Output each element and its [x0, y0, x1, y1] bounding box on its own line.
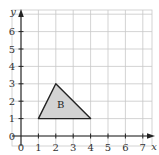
- x-axis-arrow-icon: [147, 133, 155, 139]
- y-tick-label: 1: [9, 113, 15, 124]
- grid-border: [12, 10, 152, 146]
- y-axis-label: y: [9, 6, 16, 17]
- x-tick-label: 3: [70, 142, 76, 153]
- shape-label: B: [57, 99, 64, 110]
- y-tick-label: 0: [9, 131, 15, 142]
- tick-marks: [19, 32, 143, 139]
- y-tick-label: 3: [9, 78, 15, 89]
- labels: 012345670123456xy: [9, 6, 158, 153]
- x-tick-label: 4: [87, 142, 93, 153]
- x-tick-label: 1: [35, 142, 41, 153]
- x-axis-label: x: [151, 141, 157, 152]
- y-tick-label: 6: [9, 26, 15, 37]
- x-tick-label: 2: [53, 142, 59, 153]
- x-tick-label: 0: [18, 142, 24, 153]
- coordinate-grid-chart: B 012345670123456xy: [0, 0, 159, 155]
- axes: [12, 9, 155, 146]
- x-tick-label: 5: [105, 142, 111, 153]
- y-tick-label: 4: [9, 61, 15, 72]
- y-tick-label: 2: [9, 96, 15, 107]
- y-tick-label: 5: [9, 44, 15, 55]
- grid-lines: [12, 10, 152, 146]
- x-tick-label: 6: [122, 142, 128, 153]
- x-tick-label: 7: [140, 142, 146, 153]
